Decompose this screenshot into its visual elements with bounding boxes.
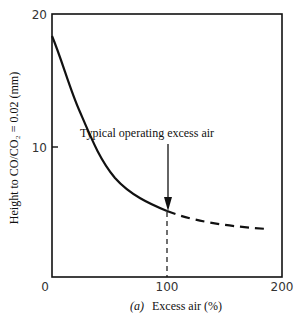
x-tick-label-0: 0: [41, 280, 49, 294]
annotation-arrowhead-icon: [164, 197, 172, 211]
y-tick-label-20: 20: [32, 8, 47, 22]
caption-label: (a): [130, 299, 144, 313]
solid-curve: [52, 36, 167, 211]
annotation-text: Typical operating excess air: [80, 126, 214, 140]
x-axis-label: Excess air (%): [152, 299, 222, 313]
x-tick-label-200: 200: [271, 280, 294, 294]
x-tick-label-100: 100: [156, 280, 179, 294]
y-tick-label-10: 10: [32, 141, 47, 155]
plot-frame: [52, 14, 282, 277]
chart: 20 10 0 100 200 Typical operating excess…: [0, 0, 303, 322]
dashed-curve: [167, 211, 268, 229]
y-axis-label: Height to CO/CO₂ = 0.02 (mm): [7, 72, 21, 224]
